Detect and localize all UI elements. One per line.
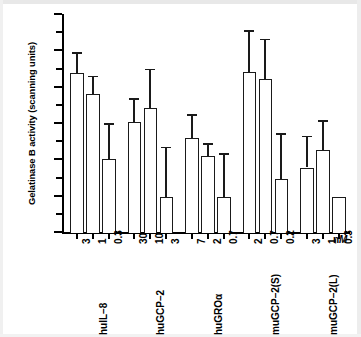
x-tick	[191, 232, 193, 239]
x-tick	[133, 232, 135, 239]
y-tick-minor	[56, 213, 62, 215]
y-axis-title: Gelatinase B activity (scanning units)	[26, 19, 37, 229]
error-bar-line	[191, 114, 193, 139]
error-bar-cap	[203, 143, 213, 145]
error-bar-line	[76, 52, 78, 73]
error-bar-line	[92, 76, 94, 94]
x-tick	[248, 232, 250, 239]
group-label: huGCP–2	[155, 290, 166, 335]
error-bar-cap	[276, 133, 286, 135]
dose-label: 30	[138, 233, 149, 244]
group-label: huIL–8	[98, 303, 109, 335]
x-tick	[264, 232, 266, 239]
group-label: huGROα	[213, 294, 224, 335]
x-tick	[280, 232, 282, 239]
x-tick	[306, 232, 308, 239]
bar	[316, 150, 330, 233]
plot-area: 020040060080010001200	[62, 14, 350, 232]
error-bar-cap	[260, 39, 270, 41]
dose-label: 0.7	[228, 230, 239, 244]
y-tick-minor	[56, 177, 62, 179]
error-bar-line	[165, 147, 167, 198]
error-bar-line	[322, 120, 324, 150]
x-tick	[76, 232, 78, 239]
y-tick-minor	[56, 68, 62, 70]
bar	[217, 197, 231, 233]
bar	[259, 79, 273, 233]
group-label: muGCP–2(S)	[270, 274, 281, 335]
dose-label: 3	[311, 238, 322, 244]
error-bar-line	[207, 143, 209, 156]
x-tick	[165, 232, 167, 239]
y-tick-minor	[56, 31, 62, 33]
x-tick	[92, 232, 94, 239]
bar	[128, 122, 142, 233]
x-tick	[207, 232, 209, 239]
y-tick-major	[54, 86, 62, 88]
x-tick	[322, 232, 324, 239]
bar	[332, 197, 346, 233]
y-tick-minor	[56, 104, 62, 106]
x-tick	[149, 232, 151, 239]
error-bar-line	[149, 69, 151, 109]
y-tick-major	[54, 13, 62, 15]
dose-label: 0.2	[285, 230, 296, 244]
dose-label: 0.7	[269, 230, 280, 244]
bar	[86, 94, 100, 233]
error-bar-cap	[161, 147, 171, 149]
y-axis-line	[62, 14, 64, 233]
y-tick-major	[54, 49, 62, 51]
bar	[300, 168, 314, 233]
error-bar-line	[264, 39, 266, 80]
bar	[201, 156, 215, 233]
y-tick-minor	[56, 140, 62, 142]
bar	[185, 138, 199, 233]
error-bar-cap	[145, 69, 155, 71]
bar-chart-figure: Gelatinase B activity (scanning units) 0…	[0, 0, 361, 337]
x-axis-unit-label: nM	[333, 234, 347, 245]
y-tick-major	[54, 158, 62, 160]
bar	[275, 179, 289, 233]
error-bar-cap	[302, 136, 312, 138]
error-bar-cap	[72, 52, 82, 54]
error-bar-line	[133, 98, 135, 122]
error-bar-cap	[104, 123, 114, 125]
dose-label: 0.3	[113, 230, 124, 244]
error-bar-cap	[244, 30, 254, 32]
bar	[160, 197, 174, 233]
error-bar-line	[223, 153, 225, 198]
y-tick-major	[54, 231, 62, 233]
error-bar-cap	[318, 120, 328, 122]
group-label: muGCP–2(L)	[328, 274, 339, 335]
dose-label: 2	[212, 238, 223, 244]
dose-label: 7	[196, 238, 207, 244]
y-tick-major	[54, 195, 62, 197]
y-tick-major	[54, 122, 62, 124]
bar	[70, 73, 84, 233]
x-tick	[108, 232, 110, 239]
error-bar-cap	[88, 76, 98, 78]
dose-label: 3	[81, 238, 92, 244]
bar	[243, 72, 257, 233]
dose-label: 10	[154, 233, 165, 244]
bar	[102, 159, 116, 233]
error-bar-line	[248, 30, 250, 72]
error-bar-line	[280, 133, 282, 179]
dose-label: 2	[253, 238, 264, 244]
error-bar-cap	[219, 153, 229, 155]
error-bar-cap	[129, 98, 139, 100]
error-bar-cap	[187, 114, 197, 116]
error-bar-line	[108, 123, 110, 159]
dose-label: 1	[97, 238, 108, 244]
error-bar-line	[306, 136, 308, 168]
x-tick	[223, 232, 225, 239]
bar	[144, 108, 158, 233]
dose-label: 3	[170, 238, 181, 244]
